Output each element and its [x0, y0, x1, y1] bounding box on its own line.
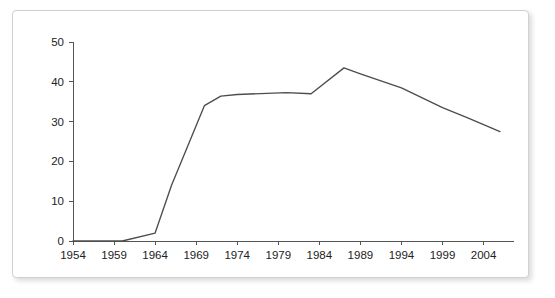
x-tick-label: 1984 [307, 249, 333, 261]
y-tick-label: 40 [51, 76, 64, 88]
x-tick-label: 1994 [389, 249, 415, 261]
data-line-value [73, 68, 500, 241]
x-tick-label: 1974 [224, 249, 250, 261]
x-tick-label: 1979 [265, 249, 291, 261]
y-axis: 01020304050 [51, 36, 73, 247]
line-chart: 01020304050 1954195919641969197419791984… [13, 11, 530, 279]
x-tick-label: 1969 [183, 249, 209, 261]
x-tick-label: 1959 [101, 249, 127, 261]
y-tick-label: 30 [51, 116, 64, 128]
x-tick-label: 1999 [430, 249, 456, 261]
figure-card: 01020304050 1954195919641969197419791984… [12, 10, 529, 278]
x-tick-label: 1964 [142, 249, 168, 261]
y-tick-label: 50 [51, 36, 64, 48]
x-axis: 1954195919641969197419791984198919941999… [60, 241, 514, 261]
x-tick-label: 1989 [348, 249, 374, 261]
x-tick-label: 2004 [471, 249, 497, 261]
y-tick-label: 20 [51, 155, 64, 167]
data-series-group [73, 68, 500, 241]
x-tick-label: 1954 [60, 249, 86, 261]
y-tick-label: 0 [58, 235, 64, 247]
y-tick-label: 10 [51, 195, 64, 207]
